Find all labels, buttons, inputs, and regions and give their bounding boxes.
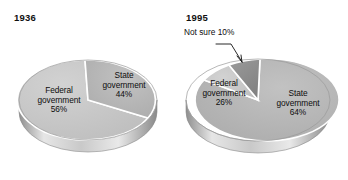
slice-value-state-1936: 44% bbox=[90, 90, 158, 100]
slice-value-not-sure-1995: 10% bbox=[218, 27, 235, 37]
not-sure-arrowhead-icon bbox=[237, 55, 242, 62]
slice-value-federal-1995: 26% bbox=[186, 98, 262, 108]
slice-label-state-1936: State government 44% bbox=[90, 71, 158, 100]
slice-label-not-sure-1995: Not sure 10% bbox=[184, 28, 234, 38]
slice-label-not-sure-line1-1995: Not sure bbox=[184, 27, 215, 37]
slice-label-state-1995: State government 64% bbox=[260, 89, 336, 118]
pie-chart-1936: 1936 Fed bbox=[0, 0, 174, 180]
slice-label-federal-1936: Federal government 56% bbox=[22, 86, 96, 115]
pie-chart-1995: 1995 bbox=[174, 0, 348, 180]
slice-label-federal-1995: Federal government 26% bbox=[186, 79, 262, 108]
not-sure-leader-line bbox=[216, 44, 242, 62]
slice-value-state-1995: 64% bbox=[260, 108, 336, 118]
slice-value-federal-1936: 56% bbox=[22, 105, 96, 115]
